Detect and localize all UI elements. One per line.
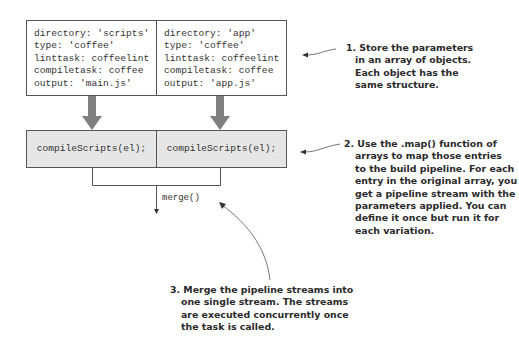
callout-arrowhead-icon bbox=[219, 202, 226, 209]
code-line: linttask: coffeelint bbox=[34, 53, 149, 64]
pipeline-box-1: compileScripts(el); bbox=[26, 130, 157, 168]
code-line: directory: 'scripts' bbox=[34, 28, 149, 39]
thick-arrow-icon bbox=[82, 96, 230, 130]
pipeline-box-2: compileScripts(el); bbox=[156, 130, 287, 168]
note-2: 2. Use the .map() function of arrays to … bbox=[344, 138, 517, 237]
code-line: directory: 'app' bbox=[164, 28, 256, 39]
code-line: linttask: coffeelint bbox=[164, 53, 279, 64]
diagram: directory: 'scripts' type: 'coffee' lint… bbox=[0, 0, 519, 350]
code-line: compiletask: coffee bbox=[34, 65, 143, 76]
code-line: output: 'main.js' bbox=[34, 78, 132, 89]
note-1: 1. Store the parameters in an array of o… bbox=[346, 42, 473, 92]
callout-arrowhead-icon bbox=[302, 53, 308, 58]
callout-line-1 bbox=[306, 49, 336, 55]
params-object-app: directory: 'app' type: 'coffee' linttask… bbox=[156, 20, 287, 96]
merge-label: merge() bbox=[162, 192, 200, 204]
arrow-down-icon bbox=[154, 209, 159, 214]
pipeline-label: compileScripts(el); bbox=[37, 143, 146, 155]
callout-line-2 bbox=[304, 144, 340, 152]
code-line: output: 'app.js' bbox=[164, 78, 256, 89]
merge-bracket bbox=[93, 168, 221, 210]
note-3: 3. Merge the pipeline streams into one s… bbox=[170, 284, 353, 334]
callout-line-3 bbox=[222, 205, 270, 280]
pipeline-label: compileScripts(el); bbox=[167, 143, 276, 155]
code-line: compiletask: coffee bbox=[164, 65, 273, 76]
callout-arrowhead-icon bbox=[300, 150, 306, 155]
code-line: type: 'coffee' bbox=[34, 40, 115, 51]
params-object-scripts: directory: 'scripts' type: 'coffee' lint… bbox=[26, 20, 157, 96]
code-line: type: 'coffee' bbox=[164, 40, 245, 51]
